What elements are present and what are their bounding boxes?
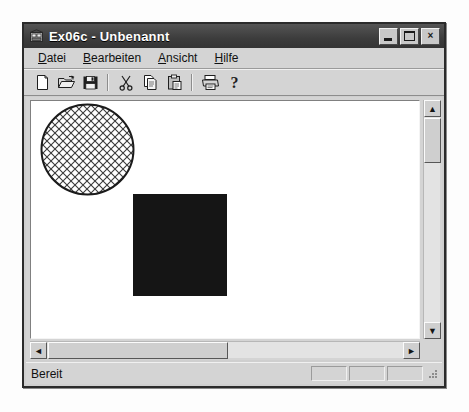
close-button[interactable]: × bbox=[421, 28, 440, 45]
canvas-shapes bbox=[31, 101, 419, 338]
paste-button[interactable] bbox=[162, 71, 186, 94]
menu-mnemonic: H bbox=[214, 51, 223, 65]
vertical-scrollbar-thumb[interactable] bbox=[424, 118, 441, 163]
client-area: ▲ ▼ ◄ ► bbox=[26, 97, 442, 360]
caption-buttons: × bbox=[379, 28, 440, 45]
window-title: Ex06c - Unbenannt bbox=[49, 29, 379, 44]
menu-label-rest: nsicht bbox=[166, 51, 197, 65]
menu-item-bearbeiten[interactable]: Bearbeiten bbox=[75, 49, 150, 67]
scroll-up-button[interactable]: ▲ bbox=[424, 100, 441, 117]
maximize-icon bbox=[404, 31, 415, 41]
open-button[interactable] bbox=[54, 71, 78, 94]
app-icon bbox=[29, 29, 44, 44]
menu-label-rest: earbeiten bbox=[91, 51, 141, 65]
chevron-right-icon: ► bbox=[407, 346, 416, 356]
menu-bar: Datei Bearbeiten Ansicht Hilfe bbox=[24, 48, 444, 69]
minimize-button[interactable] bbox=[379, 28, 398, 45]
menu-mnemonic: D bbox=[38, 51, 47, 65]
horizontal-scrollbar[interactable]: ◄ ► bbox=[30, 341, 420, 358]
new-button[interactable] bbox=[30, 71, 54, 94]
status-pane-2 bbox=[349, 366, 385, 381]
scissors-icon bbox=[118, 74, 134, 91]
question-mark-icon: ? bbox=[227, 74, 242, 91]
menu-item-hilfe[interactable]: Hilfe bbox=[206, 49, 247, 67]
new-document-icon bbox=[34, 74, 51, 91]
copy-icon bbox=[142, 74, 159, 91]
scroll-down-button[interactable]: ▼ bbox=[424, 322, 441, 339]
open-folder-icon bbox=[57, 74, 76, 91]
menu-mnemonic: A bbox=[158, 51, 166, 65]
menu-label-rest: atei bbox=[47, 51, 66, 65]
document-canvas-frame[interactable] bbox=[30, 100, 420, 339]
help-button[interactable]: ? bbox=[222, 71, 246, 94]
minimize-icon bbox=[384, 38, 392, 41]
svg-text:?: ? bbox=[230, 74, 238, 91]
status-pane-3 bbox=[387, 366, 423, 381]
status-pane-1 bbox=[311, 366, 347, 381]
clipboard-paste-icon bbox=[166, 74, 183, 91]
print-button[interactable] bbox=[198, 71, 222, 94]
scroll-left-button[interactable]: ◄ bbox=[30, 342, 47, 359]
maximize-button[interactable] bbox=[400, 28, 419, 45]
save-button[interactable] bbox=[78, 71, 102, 94]
cut-button[interactable] bbox=[114, 71, 138, 94]
menu-label-rest: ilfe bbox=[223, 51, 238, 65]
size-grip-icon[interactable] bbox=[425, 367, 439, 381]
vertical-scrollbar[interactable]: ▲ ▼ bbox=[423, 100, 440, 339]
copy-button[interactable] bbox=[138, 71, 162, 94]
black-square-shape bbox=[133, 194, 227, 296]
menu-item-ansicht[interactable]: Ansicht bbox=[150, 49, 206, 67]
status-bar: Bereit bbox=[26, 362, 442, 384]
hatched-circle-shape bbox=[42, 105, 134, 195]
scroll-right-button[interactable]: ► bbox=[403, 342, 420, 359]
status-message: Bereit bbox=[26, 367, 311, 381]
chevron-down-icon: ▼ bbox=[428, 326, 437, 336]
toolbar-separator-2 bbox=[191, 74, 193, 91]
application-window: Ex06c - Unbenannt × Datei Bearbeiten Ans… bbox=[22, 22, 446, 388]
title-bar[interactable]: Ex06c - Unbenannt × bbox=[24, 24, 444, 48]
floppy-save-icon bbox=[82, 74, 99, 91]
document-canvas[interactable] bbox=[31, 101, 419, 338]
toolbar-separator-1 bbox=[107, 74, 109, 91]
toolbar: ? bbox=[24, 69, 444, 96]
chevron-up-icon: ▲ bbox=[428, 104, 437, 114]
close-icon: × bbox=[422, 29, 439, 44]
menu-item-datei[interactable]: Datei bbox=[30, 49, 75, 67]
printer-icon bbox=[201, 74, 220, 91]
menu-mnemonic: B bbox=[83, 51, 91, 65]
horizontal-scrollbar-thumb[interactable] bbox=[48, 342, 228, 359]
chevron-left-icon: ◄ bbox=[34, 346, 43, 356]
